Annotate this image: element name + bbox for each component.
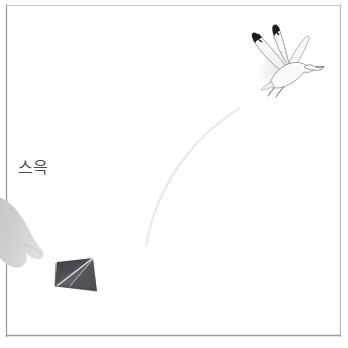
sfx-onomatopoeia: 스윽 (18, 160, 48, 176)
bird-beak (316, 67, 324, 68)
paper-airplane (55, 258, 97, 291)
panel-artwork (0, 0, 348, 348)
comic-panel: 스윽 (0, 0, 348, 348)
